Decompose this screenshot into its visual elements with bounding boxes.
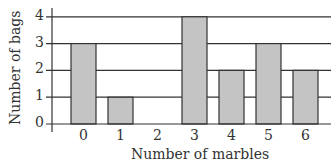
x-tick-label: 4	[222, 127, 242, 143]
bar-4	[219, 70, 244, 124]
x-axis-label: Number of marbles	[110, 146, 290, 162]
y-tick-label: 4	[30, 7, 44, 23]
bar-1	[108, 97, 133, 124]
bar-3	[182, 17, 207, 124]
y-axis-label: Number of bags	[7, 15, 27, 125]
x-tick-label: 3	[185, 127, 205, 143]
bar-6	[293, 70, 318, 124]
x-tick-label: 6	[296, 127, 316, 143]
bar-5	[256, 44, 281, 124]
x-tick-label: 5	[259, 127, 279, 143]
bar-0	[71, 44, 96, 124]
bar-chart: Number of bags Number of marbles 01234 0…	[0, 0, 333, 168]
y-tick-label: 1	[30, 87, 44, 103]
x-tick-label: 2	[148, 127, 168, 143]
y-tick-label: 0	[30, 114, 44, 130]
y-tick-label: 3	[30, 34, 44, 50]
x-tick-label: 0	[74, 127, 94, 143]
y-tick-label: 2	[30, 60, 44, 76]
x-tick-label: 1	[111, 127, 131, 143]
